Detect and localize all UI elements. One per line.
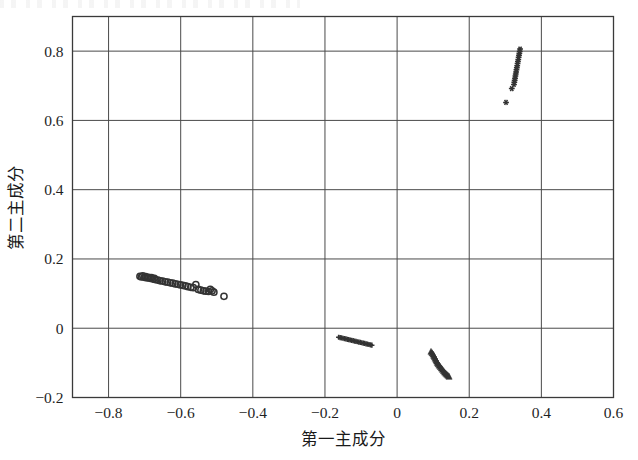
- y-tick-label: 0: [56, 320, 64, 337]
- x-axis-tick-labels: −0.8−0.6−0.4−0.200.20.40.6: [95, 404, 624, 421]
- series-cluster-lower-right: [428, 348, 452, 379]
- x-axis-title: 第一主成分: [301, 430, 386, 449]
- y-tick-label: 0.2: [44, 250, 63, 267]
- y-tick-label: 0.8: [44, 43, 64, 60]
- y-axis-title: 第二主成分: [7, 165, 26, 250]
- x-tick-label: −0.2: [311, 404, 339, 421]
- series-cluster-left: [137, 273, 227, 300]
- y-axis-tick-labels: −0.200.20.40.60.8: [35, 43, 63, 406]
- x-tick-label: −0.4: [239, 404, 267, 421]
- x-tick-label: −0.6: [167, 404, 195, 421]
- data-point: [509, 86, 515, 91]
- data-point: [221, 293, 227, 299]
- series-cluster-upper-right: [503, 47, 523, 105]
- x-tick-label: 0.6: [604, 404, 624, 421]
- scatter-plot-canvas: −0.8−0.6−0.4−0.200.20.40.6 −0.200.20.40.…: [0, 0, 638, 460]
- series-cluster-middle: [336, 335, 374, 348]
- x-tick-label: −0.8: [95, 404, 123, 421]
- x-tick-label: 0.4: [532, 404, 552, 421]
- data-point: [503, 100, 509, 105]
- y-tick-label: 0.4: [44, 181, 64, 198]
- y-tick-label: 0.6: [44, 112, 64, 129]
- data-points: [137, 47, 523, 380]
- x-tick-label: 0.2: [460, 404, 479, 421]
- x-tick-label: 0: [393, 404, 401, 421]
- y-tick-label: −0.2: [35, 389, 63, 406]
- pca-scatter-figure: −0.8−0.6−0.4−0.200.20.40.6 −0.200.20.40.…: [0, 0, 638, 460]
